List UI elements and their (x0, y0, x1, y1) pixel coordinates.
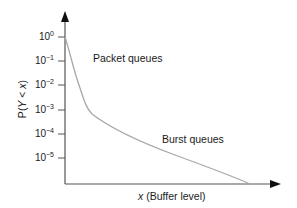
x-axis-label: x (Buffer level) (138, 190, 206, 202)
annotation-packet-queues: Packet queues (93, 52, 162, 64)
x-axis-arrow-icon (270, 180, 281, 188)
y-tick-label: 10−4 (18, 129, 54, 139)
y-tick-label: 10−5 (18, 153, 54, 163)
y-axis-label: P(Y < x) (16, 69, 28, 129)
y-axis-arrow-icon (61, 11, 69, 22)
annotation-burst-queues: Burst queues (162, 133, 224, 145)
y-tick-label: 100 (18, 32, 54, 42)
y-ticks (58, 37, 65, 158)
y-tick-label: 10−1 (18, 56, 54, 66)
chart: 100 10−1 10−2 10−3 10−4 10−5 Packet queu… (0, 0, 297, 208)
